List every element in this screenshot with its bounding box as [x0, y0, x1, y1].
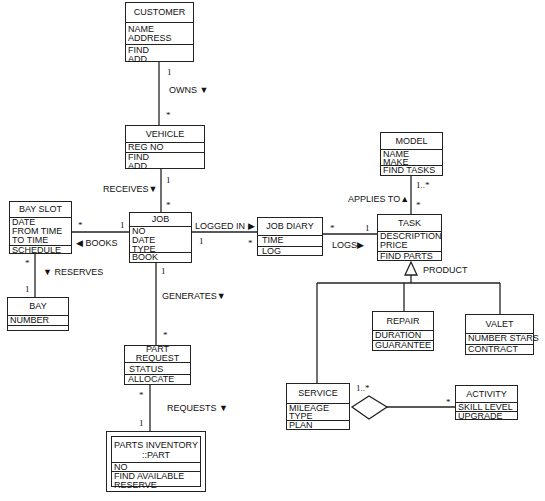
- class-name: REPAIR: [373, 312, 433, 331]
- multiplicity-books-job: 1: [120, 220, 125, 230]
- operation: UPGRADE: [458, 412, 517, 421]
- class-name: ACTIVITY: [456, 386, 517, 403]
- class-part-request[interactable]: PART REQUEST STATUS ALLOCATE: [124, 345, 191, 385]
- multiplicity-generates-job: 1: [161, 266, 166, 276]
- multiplicity-logs-task: 1: [365, 223, 370, 233]
- operation: CONTRACT: [468, 345, 533, 354]
- multiplicity-service: 1..*: [356, 383, 370, 393]
- class-stereotype: ::PART: [142, 450, 170, 460]
- class-service[interactable]: SERVICE MILEAGE TYPE PLAN: [286, 383, 350, 430]
- class-task[interactable]: TASK DESCRIPTION PRICE FIND PARTS: [377, 214, 442, 261]
- attribute: NUMBER STARS: [468, 334, 533, 343]
- attribute: TIME: [262, 236, 322, 245]
- class-customer[interactable]: CUSTOMER NAME ADDRESS FIND ADD: [125, 2, 194, 62]
- class-name: SERVICE: [287, 384, 349, 404]
- label-generates: GENERATES▼: [162, 291, 226, 301]
- operation: BOOK: [132, 253, 191, 262]
- label-applies-to: APPLIES TO▲: [348, 194, 409, 204]
- attribute: NUMBER: [10, 316, 68, 325]
- class-name: JOB DIARY: [258, 218, 322, 236]
- class-activity[interactable]: ACTIVITY SKILL LEVEL UPGRADE: [455, 385, 518, 420]
- label-reserves: ▼ RESERVES: [43, 267, 103, 277]
- multiplicity-reserves-bay: 1: [25, 284, 30, 294]
- operation: RESERVE: [114, 481, 200, 490]
- multiplicity-logged-in-diary: *: [248, 238, 253, 248]
- label-product: PRODUCT: [423, 265, 468, 275]
- class-bay[interactable]: BAY NUMBER: [7, 297, 69, 331]
- multiplicity-applies-to-task: *: [416, 200, 421, 210]
- attribute: REG NO: [128, 143, 204, 152]
- attribute: TO TIME: [12, 236, 71, 245]
- multiplicity-receives-vehicle: 1: [166, 175, 171, 185]
- generalization-arrow-icon: [405, 262, 417, 275]
- multiplicity-requests-partrequest: *: [139, 390, 144, 400]
- operation: LOG: [262, 247, 322, 256]
- label-receives: RECEIVES▼: [103, 184, 157, 194]
- class-parts-inventory[interactable]: PARTS INVENTORY ::PART NO FIND AVAILABLE…: [106, 431, 206, 492]
- attribute: ADDRESS: [128, 34, 193, 43]
- multiplicity-books-bayslot: *: [78, 220, 83, 230]
- label-books: ◀ BOOKS: [76, 238, 118, 248]
- class-job-diary[interactable]: JOB DIARY TIME LOG: [257, 217, 323, 256]
- multiplicity-owns-vehicle: *: [166, 110, 171, 120]
- multiplicity-logs-diary: *: [330, 223, 335, 233]
- class-name: BAY: [8, 298, 68, 316]
- class-bay-slot[interactable]: BAY SLOT DATE FROM TIME TO TIME SCHEDULE: [9, 201, 72, 254]
- class-job[interactable]: JOB NO DATE TYPE BOOK: [129, 212, 192, 263]
- operation: ADD: [128, 55, 193, 64]
- multiplicity-applies-to-model: 1..*: [416, 180, 430, 190]
- class-vehicle[interactable]: VEHICLE REG NO FIND ADD: [125, 125, 205, 169]
- attribute: STATUS: [129, 365, 190, 374]
- operation: FIND PARTS: [380, 252, 441, 261]
- multiplicity-activity: *: [446, 397, 451, 407]
- label-logs: LOGS▶: [332, 240, 364, 250]
- class-name: VALET: [466, 315, 533, 334]
- label-requests: REQUESTS ▼: [167, 403, 228, 413]
- operation: SCHEDULE: [12, 246, 71, 255]
- operation: GUARANTEE: [375, 341, 433, 350]
- class-name: TASK: [378, 215, 441, 232]
- operation: ADD: [128, 162, 204, 171]
- label-owns: OWNS ▼: [169, 85, 208, 95]
- class-name: PART REQUEST: [125, 346, 190, 363]
- attribute: DURATION: [375, 331, 433, 340]
- multiplicity-logged-in-job: 1: [199, 236, 204, 246]
- class-name: MODEL: [381, 133, 442, 150]
- class-repair[interactable]: REPAIR DURATION GUARANTEE: [372, 311, 434, 351]
- multiplicity-receives-job: *: [166, 200, 171, 210]
- operation: FIND TASKS: [383, 166, 442, 175]
- attribute: PRICE: [380, 241, 441, 250]
- operation: ALLOCATE: [128, 375, 190, 384]
- class-model[interactable]: MODEL NAME MAKE FIND TASKS: [380, 132, 443, 176]
- class-name: CUSTOMER: [126, 3, 193, 23]
- multiplicity-generates-partrequest: *: [163, 330, 168, 340]
- multiplicity-reserves-bayslot: *: [25, 258, 30, 268]
- attribute: TYPE: [289, 412, 349, 420]
- multiplicity-requests-inventory: 1: [139, 418, 144, 428]
- class-name: BAY SLOT: [10, 202, 71, 218]
- class-valet[interactable]: VALET NUMBER STARS CONTRACT: [465, 314, 534, 355]
- class-name: JOB: [130, 213, 191, 227]
- association-diamond-icon: [352, 396, 387, 419]
- class-name: PARTS INVENTORY: [114, 440, 198, 450]
- multiplicity-owns-customer: 1: [167, 67, 172, 77]
- label-logged-in: LOGGED IN ▶: [195, 221, 255, 231]
- operation: PLAN: [289, 421, 349, 430]
- class-name: VEHICLE: [126, 126, 204, 143]
